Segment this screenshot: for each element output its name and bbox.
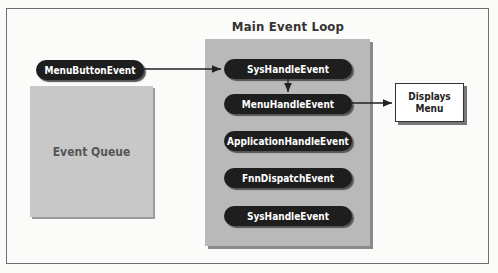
- connector-arrows: [0, 0, 498, 273]
